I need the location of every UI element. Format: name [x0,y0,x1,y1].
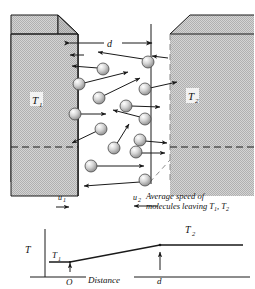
graph-origin-tick-label: O [66,277,73,287]
graph-point-origin [69,261,71,263]
left-block-temperature-label: T [32,94,39,106]
speed-right-sub: 2 [138,197,141,203]
velocity-arrow [84,182,140,186]
molecule [120,100,132,112]
caption-line-2-t2-sub: 2 [226,206,229,212]
caption-line-1: Average speed of [145,191,206,201]
molecule [108,142,120,154]
figure-root: T 1 T 2 d [0,0,255,289]
diagram-canvas: T 1 T 2 d [0,0,255,289]
graph-temperature-curve [49,245,243,262]
right-block-front-face [170,34,254,196]
velocity-arrow [98,52,143,59]
molecule [139,113,151,125]
speed-left-sub: 1 [63,197,66,203]
molecules-group [69,52,177,186]
left-block-group: T 1 [11,15,78,196]
molecule [97,63,109,75]
gap-distance-label: d [107,38,113,49]
molecule [85,160,97,172]
molecule [69,108,81,120]
graph-t1-sub: 1 [58,256,61,262]
graph-y-axis-label: T [25,244,32,255]
caption-line-2-prefix: molecules leaving [146,201,209,211]
molecule [134,134,146,146]
left-block-temperature-sub: 1 [39,101,43,109]
velocity-arrow [131,106,160,107]
molecule [142,56,154,68]
molecule [93,92,105,104]
molecule [130,146,142,158]
right-block-hidden-edge-diagonal [150,160,170,182]
temperature-graph-group: T T 1 T 2 O d Distance [25,224,250,287]
gap-dimension-group: d [70,38,152,49]
left-block-side-face [11,34,78,196]
graph-d-tick-label: d [157,276,162,286]
molecule [95,123,107,135]
molecule [139,174,151,186]
caption-line-2: molecules leaving T1, T2 [146,201,229,212]
graph-t2-sub: 2 [192,230,196,237]
right-block-group: T 2 [150,15,254,196]
graph-t2-label: T [185,224,192,235]
velocity-arrow [145,141,167,143]
graph-point-d [159,244,162,247]
velocity-arrow [152,56,168,58]
speed-right-label: u [133,193,137,202]
velocity-arrow [116,124,129,145]
right-block-temperature-label: T [188,90,195,102]
molecule [139,83,151,95]
speed-caption-group: u 1 u 2 Average speed of molecules leavi… [56,191,229,212]
velocity-arrow [103,78,140,96]
speed-left-label: u [58,193,62,202]
right-block-temperature-sub: 2 [195,97,199,105]
molecule [73,78,85,90]
graph-x-axis-label: Distance [87,275,120,285]
